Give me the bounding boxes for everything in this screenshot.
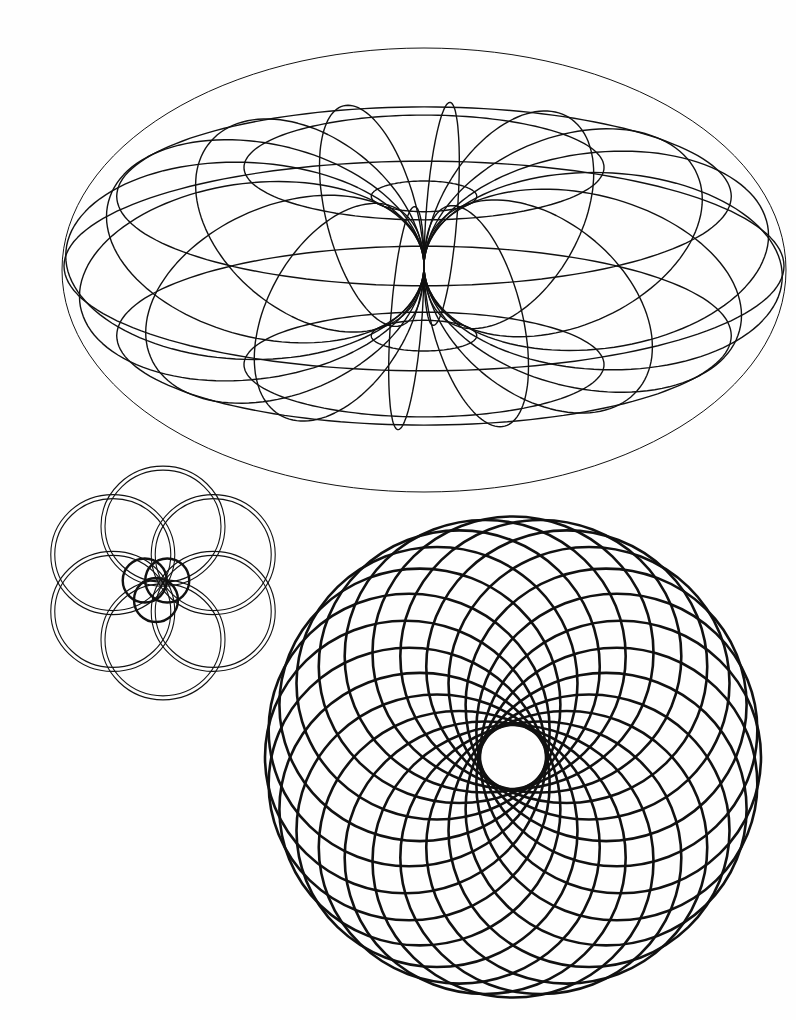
circle-rosette-drawing [265,516,761,997]
ring-knot-drawing [51,466,275,700]
torus-meridian [107,140,425,343]
rosette-circle [480,621,761,894]
rosette-circle [345,520,626,793]
rosette-circle [373,725,654,998]
torus-meridian [196,119,424,332]
rosette-circle [269,648,550,921]
torus-meridian [424,200,652,413]
rosette-circle [476,648,757,921]
rosette-circle [269,594,550,867]
rosette-circle [345,721,626,994]
rosette-circle [265,621,546,894]
torus-wireframe-drawing [62,48,786,492]
rosette-circle [476,594,757,867]
torus-meridian [424,189,742,392]
rosette-circle [400,520,681,793]
line-art-canvas [0,0,796,1020]
torus-meridian [424,129,702,337]
coloring-page: Coloring page with geometric line art Wi… [0,0,796,1020]
rosette-circle [400,721,681,994]
rosette-circle [373,516,654,789]
torus-meridian [146,195,424,403]
